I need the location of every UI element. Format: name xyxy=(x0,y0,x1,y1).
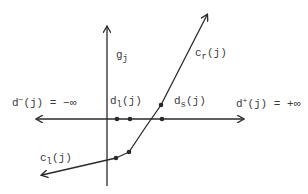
curve-point-3 xyxy=(159,103,164,108)
label-base: c xyxy=(195,47,202,59)
label-rest: (j) xyxy=(186,95,206,107)
c-r-label: cr(j) xyxy=(195,48,227,59)
label-sup: − xyxy=(19,95,24,104)
d-l-label: dl(j) xyxy=(110,96,142,107)
label-rest: (j) = −∞ xyxy=(23,97,76,109)
label-rest: (j) xyxy=(207,47,227,59)
vertical-axis-label: gj xyxy=(116,50,128,61)
axis-point-2 xyxy=(128,117,133,122)
axis-point-ds xyxy=(160,117,165,122)
label-base: c xyxy=(40,152,47,164)
label-sub: l xyxy=(47,157,52,167)
axis-point-1 xyxy=(115,117,120,122)
curve-point-1 xyxy=(114,156,119,161)
label-sub: r xyxy=(202,52,207,62)
label-sup: + xyxy=(243,96,248,105)
label-rest: (j) xyxy=(122,95,142,107)
label-rest: (j) = +∞ xyxy=(247,98,300,110)
curve-point-2 xyxy=(127,150,132,155)
label-rest: (j) xyxy=(52,152,72,164)
d-minus-label: d−(j) = −∞ xyxy=(12,98,76,109)
label-base: g xyxy=(116,49,123,61)
label-sub: l xyxy=(117,100,122,110)
d-s-label: ds(j) xyxy=(174,96,206,107)
cost-curve-right-segment xyxy=(129,15,207,152)
label-base: d xyxy=(12,97,19,109)
c-l-label: cl(j) xyxy=(40,153,72,164)
label-sub: s xyxy=(181,100,186,110)
label-base: d xyxy=(110,95,117,107)
label-base: d xyxy=(174,95,181,107)
label-base: d xyxy=(236,98,243,110)
d-plus-label: d+(j) = +∞ xyxy=(236,99,300,110)
label-sub: j xyxy=(123,54,128,64)
